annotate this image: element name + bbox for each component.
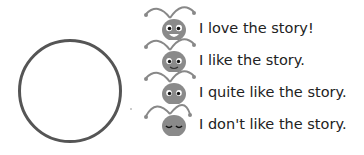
rating-circle[interactable] (18, 39, 122, 143)
rating-label: I don't like the story. (199, 116, 347, 132)
speck (130, 108, 132, 110)
rating-row-dont-like: I don't like the story. (142, 96, 364, 134)
ant-sad-icon (142, 96, 198, 136)
